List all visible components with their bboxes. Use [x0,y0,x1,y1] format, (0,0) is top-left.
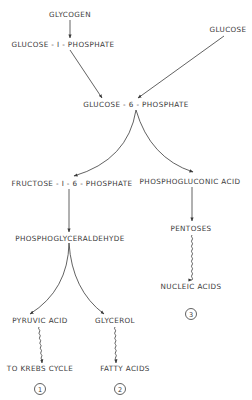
pathway-marker-3: 3 [186,309,197,320]
edge-glycerol-to-fatty-acids [114,327,116,363]
node-fructose-1-6-phosphate: FRUCTOSE - I - 6 - PHOSPHATE [12,179,133,188]
edge-glucose-6-phosphate-to-fructose-1-6-phosphate [74,110,136,176]
pathway-marker-1: 1 [35,384,46,395]
node-glucose-6-phosphate: GLUCOSE - 6 - PHOSPHATE [83,100,188,109]
edge-glucose-to-glucose-6-phosphate [138,36,224,98]
node-phosphogluconic-acid: PHOSPHOGLUCONIC ACID [140,177,241,186]
node-glycogen: GLYCOGEN [49,10,91,19]
edge-phosphoglyceraldehyde-to-glycerol [69,243,104,314]
pathway-marker-3-label: 3 [189,311,193,319]
edge-glucose-6-phosphate-to-phosphogluconic-acid [136,110,193,172]
edge-pentoses-to-nucleic-acids [191,235,192,280]
node-glucose-1-phosphate: GLUCOSE - I - PHOSPHATE [12,40,115,49]
edge-pyruvic-acid-to-krebs-cycle [39,327,43,363]
node-fatty-acids: FATTY ACIDS [100,364,150,373]
node-to-krebs-cycle: TO KREBS CYCLE [6,364,73,373]
pathway-marker-1-label: 1 [38,386,42,394]
pathway-marker-2: 2 [115,384,126,395]
metabolic-pathway-diagram: GLYCOGEN GLUCOSE - I - PHOSPHATE GLUCOSE… [0,0,252,400]
node-pyruvic-acid: PYRUVIC ACID [12,316,67,325]
edge-glucose-1-phosphate-to-glucose-6-phosphate [70,50,102,98]
pathway-marker-2-label: 2 [118,386,122,394]
node-glycerol: GLYCEROL [95,316,135,325]
node-phosphoglyceraldehyde: PHOSPHOGLYCERALDEHYDE [15,234,125,243]
node-nucleic-acids: NUCLEIC ACIDS [161,282,222,291]
node-pentoses: PENTOSES [170,224,211,233]
node-glucose: GLUCOSE [209,25,246,34]
edge-phosphoglyceraldehyde-to-pyruvic-acid [30,243,69,314]
